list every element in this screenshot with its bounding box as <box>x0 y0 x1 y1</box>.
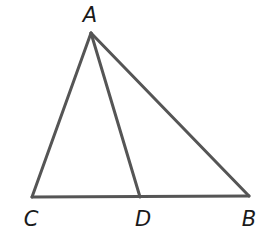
point-label-D: D <box>135 207 151 231</box>
vertex-label-C: C <box>24 207 39 231</box>
vertex-label-A: A <box>81 3 97 27</box>
diagram-svg: A C D B <box>0 0 264 236</box>
vertex-label-B: B <box>242 207 256 231</box>
segment-CB <box>32 196 249 197</box>
triangle-diagram: A C D B <box>0 0 264 236</box>
segment-AC <box>32 33 91 197</box>
